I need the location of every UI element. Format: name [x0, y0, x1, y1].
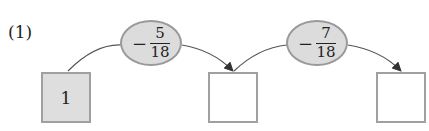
minus-sign: −: [298, 33, 313, 54]
box-start: 1: [41, 72, 91, 123]
minus-sign: −: [132, 33, 147, 54]
denominator: 18: [317, 45, 336, 60]
fraction: 5 18: [150, 26, 170, 60]
numerator: 5: [155, 26, 165, 41]
box-start-value: 1: [61, 88, 72, 108]
operation-oval-2: − 7 18: [286, 20, 348, 66]
denominator: 18: [151, 45, 170, 60]
arrow-2-right: [348, 45, 400, 70]
arrow-1-right: [182, 45, 232, 70]
fraction: 7 18: [316, 26, 336, 60]
box-answer-2[interactable]: [376, 72, 426, 123]
numerator: 7: [321, 26, 331, 41]
operation-oval-1: − 5 18: [120, 20, 182, 66]
arrow-1-left: [68, 45, 121, 71]
arrow-2-left: [234, 45, 287, 71]
box-answer-1[interactable]: [208, 72, 258, 123]
